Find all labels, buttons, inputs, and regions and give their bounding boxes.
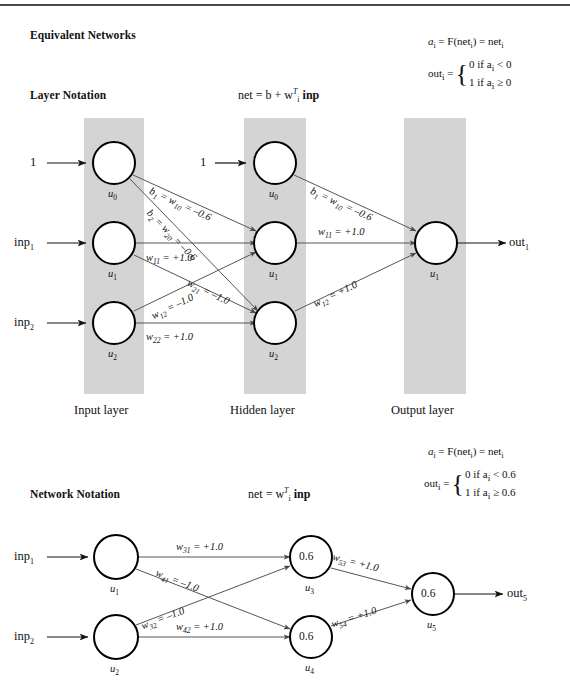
case0-network: 0 if a [465,468,488,480]
node-n-u1 [94,535,138,579]
node-label-in-u0-sub: 0 [113,193,117,202]
out-eq-layer: = [447,67,453,79]
net-equation-network: net = wTi inp [248,487,310,503]
input-label-1: 1 [30,156,36,169]
out-sub-network: i [438,482,441,492]
edge-label-hidden-w11-text: w [318,226,325,237]
node-label-n-u5: u5 [427,620,436,633]
case1-network: 1 if a [465,486,488,498]
edge-label-w42-text: w [176,621,183,632]
case1-sub-network: i [488,491,491,501]
edge-label-w22-text: w [146,331,153,342]
output-label-out1-sub: 1 [525,243,529,252]
caption-hidden-layer: Hidden layer [230,404,295,417]
edge-label-w11-text: w [146,252,153,263]
net-input-label-inp2-text: inp [14,629,30,643]
node-label-in-u1: u1 [108,269,117,282]
net-equation-network-text: net = w [248,487,284,501]
out-label-network: out [424,477,438,489]
out-sub-layer: i [442,72,445,82]
section-heading-layer: Layer Notation [30,90,106,102]
net-input-label-inp2: inp2 [14,630,34,646]
node-label-in-u2: u2 [108,349,117,362]
node-label-in-u2-sub: 2 [113,353,117,362]
edge-label-w11-sub: 11 [153,257,160,266]
node-label-n-u4-sub: 4 [310,667,314,676]
node-label-n-u1: u1 [110,584,119,597]
net-input-label-inp1: inp1 [14,550,34,566]
section-heading-network: Network Notation [30,489,120,501]
input-label-inp1: inp1 [14,236,34,252]
node-label-n-u5-sub: 5 [432,624,436,633]
input-label-inp2-text: inp [14,315,30,329]
node-label-n-u2-sub: 2 [115,668,119,677]
net-equation-layer-sub: i [297,95,299,104]
node-value-u3: 0.6 [299,551,313,563]
case0-layer: 0 if a [469,58,492,70]
activation-eq1-tail-network: ) = net [473,445,502,457]
node-label-in-u0: u0 [108,189,117,202]
activation-eq1-tail-sub-layer: i [501,41,503,50]
net-output-label-out5-text: out [507,586,523,600]
activation-a-sub-layer: i [434,41,436,50]
edge-label-w31-text: w [176,541,183,552]
activation-eq1-layer: = F(net [438,35,470,47]
brace-icon: { [456,64,468,85]
out-label-layer: out [428,67,442,79]
output-rule-layer: outi = { 0 if ai < 0 1 if ai ≥ 0 [428,58,511,91]
node-hid-u1 [254,222,296,264]
input-label-inp1-text: inp [14,235,30,249]
activation-a-sub-network: i [434,451,436,460]
edge-label-w11: w11 = +1.0 [146,253,193,266]
edge-label-w31-sub: 31 [183,546,191,555]
figure-page: Equivalent Networks Layer Notation net =… [0,0,570,682]
node-label-hid-u1: u1 [269,269,278,282]
edge-label-w22: w22 = +1.0 [146,332,193,345]
node-label-out-u1: u1 [430,269,439,282]
node-hid-u0 [254,142,296,184]
node-hid-u2 [254,302,296,344]
node-n-u2 [94,615,138,659]
caption-input-layer: Input layer [74,404,129,417]
activation-eq1-tail-layer: ) = net [473,35,502,47]
figure-title: Equivalent Networks [30,30,136,42]
case1-tail-network: ≥ 0.6 [493,486,516,498]
net-equation-layer-text: net = b + w [238,88,293,102]
edge-label-hidden-w11-sub: 11 [325,231,332,240]
node-label-hid-u0: u0 [269,189,278,202]
case0-tail-network: < 0.6 [493,468,516,480]
output-label-out1: out1 [509,236,529,252]
edge-label-w31: w31 = +1.0 [176,542,223,555]
edge-label-w42-tail: = +1.0 [193,621,223,632]
output-label-out1-text: out [509,235,525,249]
activation-eq1-network: = F(net [438,445,470,457]
case1-sub-layer: i [492,81,495,91]
input-label-inp2-sub: 2 [30,323,34,332]
net-equation-layer-tail: inp [303,88,320,102]
input-label-1-text: 1 [30,155,36,169]
edge-label-hidden-w11-tail: = +1.0 [335,226,365,237]
node-label-n-u3: u3 [305,583,314,596]
node-value-u4: 0.6 [299,631,313,643]
net-equation-layer: net = b + wTi inp [238,88,319,104]
node-out-u1 [415,222,457,264]
brace-icon: { [452,474,464,495]
net-output-label-out5: out5 [507,587,527,603]
edge-label-w11-tail: = +1.0 [163,252,193,263]
edge-hidden-b1 [294,175,416,231]
node-value-u5: 0.6 [421,588,435,600]
node-label-hid-u2-sub: 2 [274,353,278,362]
node-label-hid-u2: u2 [269,349,278,362]
hidden-bias-input-label: 1 [200,156,206,169]
activation-eq1-tail-sub-network: i [501,451,503,460]
node-in-u1 [93,222,135,264]
node-label-in-u1-sub: 1 [113,273,117,282]
case0-sub-layer: i [492,63,495,73]
edge-label-w22-sub: 22 [153,336,161,345]
caption-output-layer: Output layer [391,404,454,417]
node-label-n-u1-sub: 1 [115,588,119,597]
out-eq-network: = [443,477,449,489]
case0-tail-layer: < 0 [497,58,511,70]
net-input-label-inp1-sub: 1 [30,557,34,566]
node-label-n-u4: u4 [305,663,314,676]
